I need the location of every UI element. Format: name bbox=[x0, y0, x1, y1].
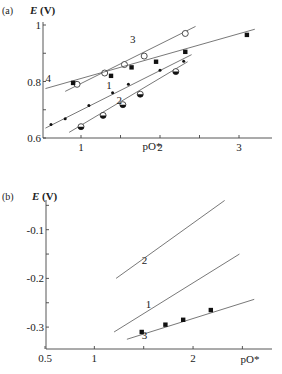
data-point bbox=[141, 53, 147, 59]
data-point bbox=[209, 308, 213, 312]
data-point bbox=[49, 123, 52, 126]
panel-label: (b) bbox=[2, 191, 14, 203]
curve-label: 1 bbox=[106, 79, 112, 91]
panel-label: (a) bbox=[2, 5, 13, 17]
y-tick-label: 0.8 bbox=[27, 76, 41, 88]
y-axis-title: E bbox=[29, 4, 37, 16]
x-axis-title: pO* bbox=[143, 140, 162, 152]
curve-label: 1 bbox=[146, 298, 152, 310]
data-point bbox=[71, 81, 75, 85]
data-point bbox=[129, 65, 133, 69]
y-tick-label: 1 bbox=[36, 19, 42, 31]
figure: (a)E(V)0.60.81123pO*1234 (b)E(V)-0.1-0.2… bbox=[0, 0, 282, 374]
x-tick-label: 2 bbox=[190, 352, 196, 364]
data-point bbox=[163, 322, 167, 326]
data-point bbox=[109, 74, 113, 78]
x-tick-label: 3 bbox=[236, 141, 242, 153]
x-tick-label: 1 bbox=[78, 141, 84, 153]
curve-label: 4 bbox=[45, 72, 51, 84]
y-tick-label: -0.3 bbox=[27, 321, 45, 333]
data-point bbox=[159, 69, 162, 72]
y-tick-label: -0.1 bbox=[27, 224, 44, 236]
series-1 bbox=[114, 254, 239, 332]
data-point bbox=[182, 30, 188, 36]
y-axis-title: E bbox=[31, 190, 39, 202]
curve-label: 2 bbox=[142, 254, 148, 266]
data-point bbox=[154, 60, 158, 64]
data-point bbox=[245, 33, 249, 37]
fit-line bbox=[69, 62, 187, 133]
curve-label: 3 bbox=[130, 33, 136, 45]
series-2 bbox=[69, 62, 187, 133]
x-axis-title: pO* bbox=[241, 353, 260, 365]
panel-b: (b)E(V)-0.1-0.2-0.30.512pO*123 bbox=[2, 190, 272, 365]
x-tick-label: 0.5 bbox=[38, 352, 52, 364]
data-point bbox=[64, 117, 67, 120]
data-point bbox=[181, 318, 185, 322]
curve-label: 2 bbox=[117, 94, 123, 106]
data-point bbox=[127, 83, 130, 86]
data-point bbox=[182, 60, 185, 63]
series-2 bbox=[116, 200, 225, 278]
series-4 bbox=[45, 29, 254, 88]
y-tick-label: -0.2 bbox=[27, 272, 44, 284]
y-tick-label: 0.6 bbox=[27, 132, 41, 144]
curve-label: 3 bbox=[142, 329, 148, 341]
data-point bbox=[111, 91, 114, 94]
series-1 bbox=[45, 55, 191, 128]
x-tick-label: 1 bbox=[92, 352, 98, 364]
y-axis-unit: (V) bbox=[40, 4, 56, 17]
fit-line bbox=[45, 29, 254, 88]
fit-line bbox=[114, 254, 239, 332]
fit-line bbox=[45, 55, 191, 128]
y-axis-unit: (V) bbox=[42, 190, 58, 203]
data-point bbox=[183, 50, 187, 54]
panel-a: (a)E(V)0.60.81123pO*1234 bbox=[2, 4, 272, 153]
data-point bbox=[87, 104, 90, 107]
fit-line bbox=[116, 200, 225, 278]
